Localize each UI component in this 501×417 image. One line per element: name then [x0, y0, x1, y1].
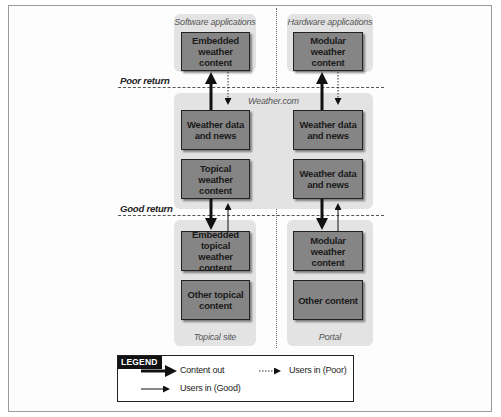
- legend-content-out-label: Content out: [180, 365, 224, 375]
- legend-users-in-good-label: Users in (Good): [180, 383, 241, 393]
- legend-users-in-poor-label: Users in (Poor): [289, 365, 347, 375]
- legend: LEGEND Content out Users in (Poor) Users…: [117, 355, 354, 402]
- legend-arrow-samples: [118, 356, 355, 403]
